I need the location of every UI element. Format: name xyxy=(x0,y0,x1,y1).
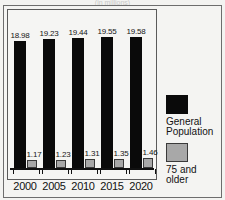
bar-general-population xyxy=(14,41,26,168)
x-axis-tick-labels: 20002005201020152020 xyxy=(7,180,157,195)
bar-75-and-older xyxy=(27,160,37,168)
bar-value-label-general-population: 19.44 xyxy=(67,28,89,37)
x-axis-tick xyxy=(39,169,40,174)
x-axis-tick xyxy=(126,169,127,174)
bar-value-label-75-and-older: 1.31 xyxy=(82,149,102,158)
bar-value-label-general-population: 19.58 xyxy=(125,27,147,36)
legend-entry-general-population: General Population xyxy=(166,95,218,137)
legend-label-line2: older xyxy=(166,175,218,185)
bar-value-label-75-and-older: 1.17 xyxy=(24,150,44,159)
x-axis-tick xyxy=(68,169,69,174)
x-axis-tick xyxy=(13,169,14,174)
bar-value-label-general-population: 19.23 xyxy=(38,29,60,38)
bar-value-label-75-and-older: 1.35 xyxy=(111,149,131,158)
x-axis-tick xyxy=(97,169,98,174)
legend-label-general-population: General Population xyxy=(166,117,218,137)
x-axis-line xyxy=(10,168,154,170)
legend-entry-75-and-older: 75 and older xyxy=(166,143,218,185)
chart-figure: (in millions) 18.981.1719.231.2319.441.3… xyxy=(0,0,225,200)
x-axis-tick xyxy=(71,169,72,174)
x-axis-tick xyxy=(100,169,101,174)
x-axis-tick xyxy=(155,169,156,174)
bar-general-population xyxy=(43,39,55,168)
bar-value-label-general-population: 19.55 xyxy=(96,27,118,36)
x-axis-tick xyxy=(42,169,43,174)
bar-value-label-75-and-older: 1.23 xyxy=(53,150,73,159)
plot-area: 18.981.1719.231.2319.441.3119.551.3519.5… xyxy=(7,9,157,180)
bar-value-label-general-population: 18.98 xyxy=(9,31,31,40)
bar-75-and-older xyxy=(56,160,66,168)
x-axis-tick xyxy=(129,169,130,174)
bar-75-and-older xyxy=(85,159,95,168)
gray-swatch-icon xyxy=(166,143,188,162)
plot-inner: 18.981.1719.231.2319.441.3119.551.3519.5… xyxy=(8,10,156,179)
legend-label-line2: Population xyxy=(166,127,218,137)
x-axis-label-2020: 2020 xyxy=(124,180,158,192)
black-swatch-icon xyxy=(166,95,188,114)
bar-value-label-75-and-older: 1.46 xyxy=(140,148,160,157)
bar-75-and-older xyxy=(143,158,153,168)
bar-75-and-older xyxy=(114,159,124,168)
legend-label-75-and-older: 75 and older xyxy=(166,165,218,185)
chart-legend: General Population 75 and older xyxy=(166,95,218,191)
